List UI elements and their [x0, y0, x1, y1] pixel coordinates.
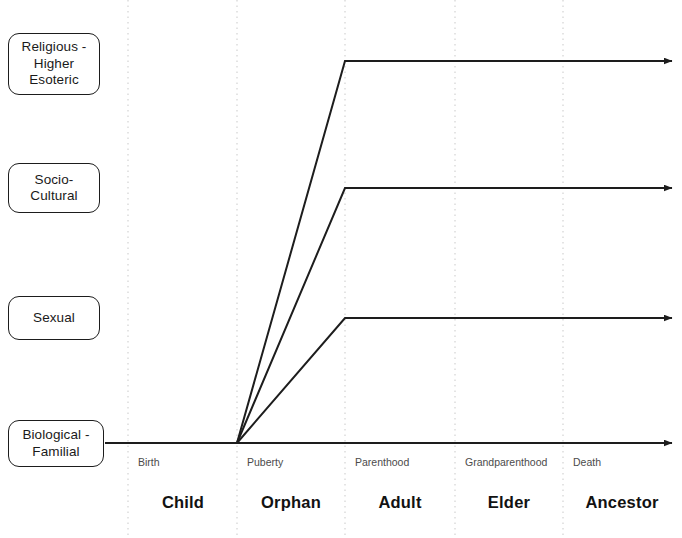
dimension-label-socio-cultural: Socio- Cultural: [8, 163, 100, 213]
stage-label-ancestor: Ancestor: [585, 493, 658, 512]
tick-label-birth: Birth: [138, 456, 160, 468]
dimension-label-biological: Biological - Familial: [8, 420, 104, 467]
dimension-label-sexual: Sexual: [8, 296, 100, 340]
tick-label-parenthood: Parenthood: [355, 456, 409, 468]
tick-label-puberty: Puberty: [247, 456, 283, 468]
dimension-label-religious: Religious - Higher Esoteric: [8, 33, 100, 95]
trajectories-group: [105, 61, 672, 443]
life-stage-diagram: Religious - Higher Esoteric Socio- Cultu…: [0, 0, 682, 538]
tick-label-death: Death: [573, 456, 601, 468]
stage-label-orphan: Orphan: [261, 493, 321, 512]
stage-label-adult: Adult: [378, 493, 421, 512]
stage-label-elder: Elder: [488, 493, 530, 512]
stage-label-child: Child: [162, 493, 204, 512]
tick-label-grandparenthood: Grandparenthood: [465, 456, 547, 468]
